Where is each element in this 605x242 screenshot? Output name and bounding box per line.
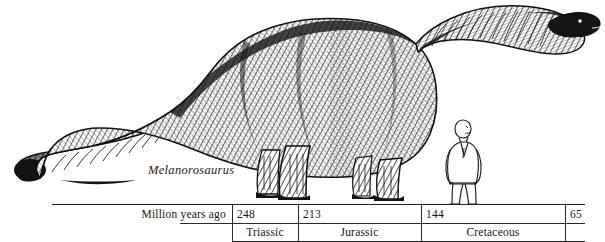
tick-value-248: 248 [237,208,255,220]
human-scale-figure [446,120,481,205]
divider-65 [565,205,566,242]
tail-ventral-spur [60,180,136,184]
illustration-page: Melanorosaurus Million years ago 248 213… [0,0,605,242]
tick-value-213: 213 [303,208,321,220]
tick-value-65: 65 [570,208,582,220]
timeline-top-rule [52,204,585,205]
hind-leg-near [279,146,310,198]
row-label-underline [180,223,232,224]
species-caption: Melanorosaurus [148,163,234,178]
tick-value-144: 144 [426,208,444,220]
fore-leg-far [353,156,372,196]
period-label-triassic: Triassic [232,226,298,238]
period-label-jurassic: Jurassic [298,226,421,238]
dinosaur-illustration [0,0,605,205]
fore-leg-near [377,158,402,199]
period-label-cretaceous: Cretaceous [421,226,565,238]
geological-timeline: Million years ago 248 213 144 65 Triassi… [0,195,605,242]
dinosaur-body-group [0,0,605,205]
timeline-row-label: Million years ago [141,208,226,220]
eye [578,19,581,22]
timeline-middle-rule [232,223,585,224]
hind-leg-far [257,150,280,194]
